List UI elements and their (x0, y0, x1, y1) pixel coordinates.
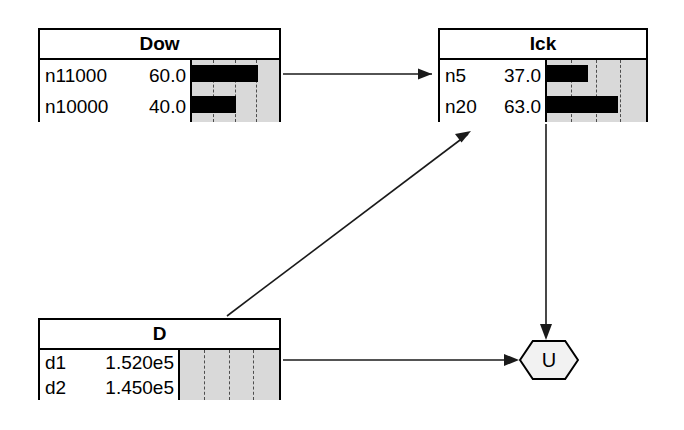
row-value: 1.450e5 (105, 377, 174, 399)
table-row[interactable]: n1100060.0 (40, 60, 190, 91)
row-value: 37.0 (504, 65, 541, 87)
table-row[interactable]: n2063.0 (440, 91, 545, 122)
node-title-ick: Ick (440, 30, 646, 60)
node-title-dow: Dow (40, 30, 279, 60)
node-body-dow: n1100060.0n1000040.0 (40, 60, 279, 122)
node-body-d: d11.520e5d21.450e5 (40, 350, 279, 400)
chart-bar-row (547, 91, 646, 122)
row-value: 1.520e5 (105, 352, 174, 374)
node-dow[interactable]: Down1100060.0n1000040.0 (38, 28, 281, 122)
chart-bar-row (192, 91, 279, 122)
row-key: d1 (45, 352, 66, 374)
node-d[interactable]: Dd11.520e5d21.450e5 (38, 318, 281, 400)
diagram-canvas: Down1100060.0n1000040.0Ickn537.0n2063.0D… (0, 0, 684, 430)
chart-bar (547, 96, 618, 113)
node-ick[interactable]: Ickn537.0n2063.0 (438, 28, 648, 122)
node-title-d: D (40, 320, 279, 350)
chart-bar-row (180, 375, 279, 400)
arrowhead-d-to-ick (455, 131, 471, 143)
hexagon-shape (519, 340, 579, 380)
bar-chart-ick (547, 60, 646, 122)
arrowhead-dow-to-ick (418, 69, 432, 80)
row-value: 63.0 (504, 96, 541, 118)
arrowhead-d-to-u (504, 354, 519, 366)
row-key: d2 (45, 377, 66, 399)
row-key: n11000 (45, 65, 107, 87)
node-rows-d: d11.520e5d21.450e5 (40, 350, 180, 400)
node-body-ick: n537.0n2063.0 (440, 60, 646, 122)
table-row[interactable]: n537.0 (440, 60, 545, 91)
chart-bar (547, 65, 588, 82)
chart-bar (192, 96, 236, 113)
bar-chart-d (180, 350, 279, 400)
row-key: n5 (445, 65, 466, 87)
table-row[interactable]: d21.450e5 (40, 375, 178, 400)
table-row[interactable]: d11.520e5 (40, 350, 178, 375)
table-row[interactable]: n1000040.0 (40, 91, 190, 122)
node-u[interactable]: U (519, 340, 579, 380)
row-value: 60.0 (149, 65, 186, 87)
chart-bar (192, 65, 258, 82)
row-value: 40.0 (149, 96, 186, 118)
arrowhead-ick-to-u (540, 324, 552, 340)
row-key: n10000 (45, 96, 108, 118)
row-key: n20 (445, 96, 477, 118)
chart-bar-row (192, 60, 279, 91)
node-rows-dow: n1100060.0n1000040.0 (40, 60, 192, 122)
chart-bar-row (547, 60, 646, 91)
node-rows-ick: n537.0n2063.0 (440, 60, 547, 122)
edge-d-to-ick (227, 134, 468, 316)
bar-chart-dow (192, 60, 279, 122)
chart-bar-row (180, 350, 279, 375)
